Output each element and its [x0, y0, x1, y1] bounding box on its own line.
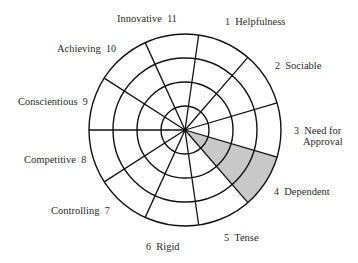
label-dependent: 4 Dependent — [274, 186, 330, 197]
label-controlling: Controlling 7 — [51, 205, 110, 216]
label-conscientious: Conscientious 9 — [18, 96, 88, 107]
center-dot — [183, 128, 187, 132]
label-helpfulness: 1 Helpfulness — [225, 16, 285, 27]
spoke-6 — [185, 103, 277, 130]
label-competitive: Competitive 8 — [24, 154, 86, 165]
label-need-for-approval: 3 Need for Approval — [294, 125, 343, 147]
label-achieving: Achieving 10 — [57, 43, 116, 54]
label-tense: 5 Tense — [224, 232, 259, 243]
label-sociable: 2 Sociable — [275, 60, 321, 71]
label-rigid: 6 Rigid — [146, 241, 180, 252]
label-innovative: Innovative 11 — [117, 13, 177, 24]
